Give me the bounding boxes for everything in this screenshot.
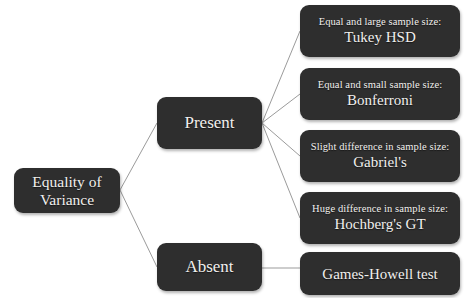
node-condition: Huge difference in sample size: xyxy=(306,203,454,215)
node-label: Present xyxy=(163,113,256,132)
edge-present-to-gabriels xyxy=(262,123,300,156)
node-condition: Equal and large sample size: xyxy=(306,16,454,28)
node-test-name: Tukey HSD xyxy=(306,29,454,46)
node-games-howell-test[interactable]: Games-Howell test xyxy=(300,252,460,295)
node-gabriels[interactable]: Slight difference in sample size: Gabrie… xyxy=(300,130,460,182)
node-label-line2: Variance xyxy=(20,191,114,208)
node-test-name: Hochberg's GT xyxy=(306,216,454,233)
node-condition: Slight difference in sample size: xyxy=(306,141,454,153)
node-equality-of-variance[interactable]: Equality of Variance xyxy=(14,168,120,213)
node-test-name: Bonferroni xyxy=(306,92,454,109)
edge-root-to-absent xyxy=(120,190,157,267)
edge-present-to-hochbergs xyxy=(262,123,300,218)
node-absent[interactable]: Absent xyxy=(157,243,262,291)
edge-present-to-tukey xyxy=(262,31,300,123)
node-present[interactable]: Present xyxy=(157,97,262,149)
node-hochbergs-gt[interactable]: Huge difference in sample size: Hochberg… xyxy=(300,192,460,244)
node-label: Absent xyxy=(163,257,256,276)
node-test-name: Gabriel's xyxy=(306,154,454,171)
node-condition: Equal and small sample size: xyxy=(306,79,454,91)
node-label-line1: Equality of xyxy=(20,173,114,190)
node-tukey-hsd[interactable]: Equal and large sample size: Tukey HSD xyxy=(300,5,460,57)
flowchart-canvas: Equality of Variance Present Absent Equa… xyxy=(0,0,464,298)
node-test-name: Games-Howell test xyxy=(306,266,454,283)
node-bonferroni[interactable]: Equal and small sample size: Bonferroni xyxy=(300,68,460,120)
edge-present-to-bonferroni xyxy=(262,94,300,123)
edge-root-to-present xyxy=(120,123,157,190)
